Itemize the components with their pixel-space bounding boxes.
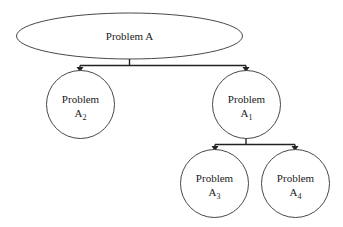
node-problem-a3: Problem A3 [181,150,249,218]
decomposition-diagram: Problem A Problem A2 Problem A1 Problem … [0,0,343,227]
node-problem-a4: Problem A4 [262,150,330,218]
node-problem-a1: Problem A1 [213,71,281,139]
node-problem-a: Problem A [17,13,243,59]
node-label: Problem [196,172,234,184]
edges-a1 [212,139,299,152]
node-label: Problem [62,93,100,105]
node-label: Problem A [106,30,153,42]
node-label: Problem [228,93,266,105]
node-label: Problem [277,172,315,184]
node-problem-a2: Problem A2 [47,71,115,139]
edges-root [77,59,250,72]
